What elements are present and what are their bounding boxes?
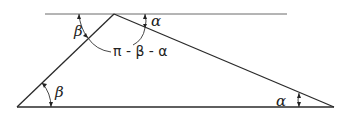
arrowhead [83, 33, 88, 38]
arrowhead [49, 102, 53, 107]
right-side [114, 14, 334, 107]
arrowhead [77, 14, 81, 19]
arrowhead [42, 83, 47, 88]
left-side [17, 14, 114, 107]
apex-angle-label: π - β - α [113, 43, 168, 59]
arrowhead [297, 93, 301, 98]
alpha-bottom-label: α [276, 92, 286, 110]
apex-arc-left [88, 38, 111, 52]
alpha-top-label: α [151, 12, 161, 30]
arrowhead [297, 102, 301, 107]
beta-bottom-label: β [54, 83, 64, 101]
triangle-diagram: β α β α π - β - α [0, 0, 353, 114]
arrowhead [143, 14, 147, 19]
beta-top-label: β [73, 22, 83, 40]
